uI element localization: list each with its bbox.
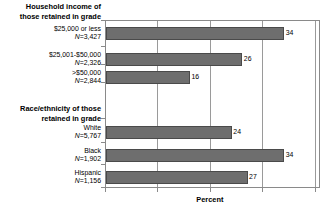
bar-0 bbox=[106, 27, 284, 40]
plot-area bbox=[105, 20, 320, 188]
bar-value-label-1: 26 bbox=[244, 55, 252, 63]
bar-2 bbox=[106, 71, 190, 84]
category-label-income-over-50000: >$50,000N=2,844 bbox=[0, 69, 101, 86]
x-axis-tick-30 bbox=[262, 188, 263, 192]
category-label-hispanic: HispanicN=1,156 bbox=[0, 169, 101, 186]
bar-3 bbox=[106, 126, 232, 139]
bar-5 bbox=[106, 171, 248, 184]
x-axis-tick-20 bbox=[210, 188, 211, 192]
bar-value-label-4: 34 bbox=[286, 151, 294, 159]
bar-value-label-0: 34 bbox=[286, 29, 294, 37]
group-header-household-income: Household income ofthose retained in gra… bbox=[0, 2, 101, 21]
group-header-race-ethnicity: Race/ethnicity of thoseretained in grade bbox=[0, 104, 101, 123]
x-axis-tick-0 bbox=[105, 188, 106, 192]
bar-1 bbox=[106, 53, 242, 66]
x-axis-tick-40 bbox=[315, 188, 316, 192]
gridline-20 bbox=[210, 21, 211, 187]
bar-value-label-2: 16 bbox=[191, 73, 199, 81]
bar-value-label-3: 24 bbox=[233, 128, 241, 136]
category-label-column: Household income ofthose retained in gra… bbox=[0, 0, 104, 212]
bar-4 bbox=[106, 149, 284, 162]
category-label-income-25000-or-less: $25,000 or lessN=3,427 bbox=[0, 25, 101, 42]
x-axis-label: Percent bbox=[105, 195, 315, 204]
gridline-10 bbox=[157, 21, 158, 187]
category-label-income-25001-50000: $25,001-$50,000N=2,326 bbox=[0, 51, 101, 68]
gridline-30 bbox=[262, 21, 263, 187]
chart-figure: Household income ofthose retained in gra… bbox=[0, 0, 327, 212]
x-axis-ticks bbox=[105, 188, 320, 193]
bar-value-label-5: 27 bbox=[249, 173, 257, 181]
category-label-white: WhiteN=5,767 bbox=[0, 124, 101, 141]
x-axis-tick-10 bbox=[157, 188, 158, 192]
gridline-40 bbox=[315, 21, 316, 187]
category-label-black: BlackN=1,902 bbox=[0, 147, 101, 164]
